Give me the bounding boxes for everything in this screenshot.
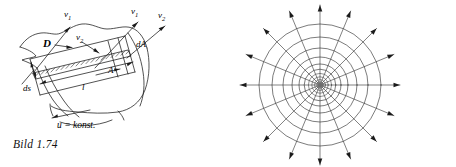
label-ds: ds xyxy=(23,83,32,93)
figure-sheet: v1 D v2 v1 v2 dA ds l A u = konst. Bild … xyxy=(0,0,456,167)
bild-1-75-drawing xyxy=(228,0,456,167)
field-line-arrowhead xyxy=(387,111,394,116)
field-line xyxy=(321,11,351,84)
label-A: A xyxy=(107,65,114,75)
field-line-arrowhead xyxy=(346,152,351,159)
vector-D xyxy=(55,45,72,49)
field-line xyxy=(321,54,394,84)
field-line-arrowhead xyxy=(318,159,323,166)
field-line-arrowhead xyxy=(289,11,294,18)
field-line xyxy=(246,54,319,84)
field-line-arrowhead xyxy=(394,83,401,88)
surface-outline-left-lobe xyxy=(20,47,37,68)
tube-generator-lower xyxy=(40,72,135,95)
label-dA: dA xyxy=(136,39,147,49)
field-line xyxy=(321,86,377,142)
field-line xyxy=(321,86,394,116)
label-v1-left: v1 xyxy=(64,9,71,21)
field-line xyxy=(321,28,377,84)
cross-section-dA-edge xyxy=(118,38,128,74)
field-line xyxy=(289,11,319,84)
caption-bild-1-74: Bild 1.74 xyxy=(13,138,58,150)
field-line xyxy=(321,86,351,159)
vector-v2-right xyxy=(127,26,165,58)
figure-bild-1-74: v1 D v2 v1 v2 dA ds l A u = konst. Bild … xyxy=(0,0,228,167)
field-line xyxy=(289,86,319,159)
field-line xyxy=(263,28,319,84)
leader-u-konst-left xyxy=(50,104,53,116)
label-v1-right: v1 xyxy=(131,6,138,18)
label-l: l xyxy=(82,82,85,92)
label-v2-right: v2 xyxy=(158,10,166,22)
surface-outline-top xyxy=(20,24,147,48)
field-line-arrowhead xyxy=(246,54,253,59)
field-line-arrowhead xyxy=(318,5,323,12)
leader-u-konst-right xyxy=(118,111,124,120)
field-line xyxy=(263,86,319,142)
field-line-arrowhead xyxy=(289,152,294,159)
edge-curve-lower-left-2 xyxy=(45,66,79,117)
field-line xyxy=(246,86,319,116)
vector-v2-inner xyxy=(82,42,99,53)
label-v2-inner: v2 xyxy=(76,32,84,44)
figure-bild-1-75: Bild 1.75 xyxy=(228,0,456,167)
dimension-line-l xyxy=(40,62,133,84)
source-point xyxy=(318,83,322,87)
vector-v1-right xyxy=(95,22,138,68)
field-line-arrowhead xyxy=(240,83,247,88)
field-line-arrowhead xyxy=(387,54,394,59)
label-D: D xyxy=(42,37,51,49)
field-line-arrowhead xyxy=(346,11,351,18)
label-u-konst: u = konst. xyxy=(57,120,95,130)
field-line-arrowhead xyxy=(246,111,253,116)
